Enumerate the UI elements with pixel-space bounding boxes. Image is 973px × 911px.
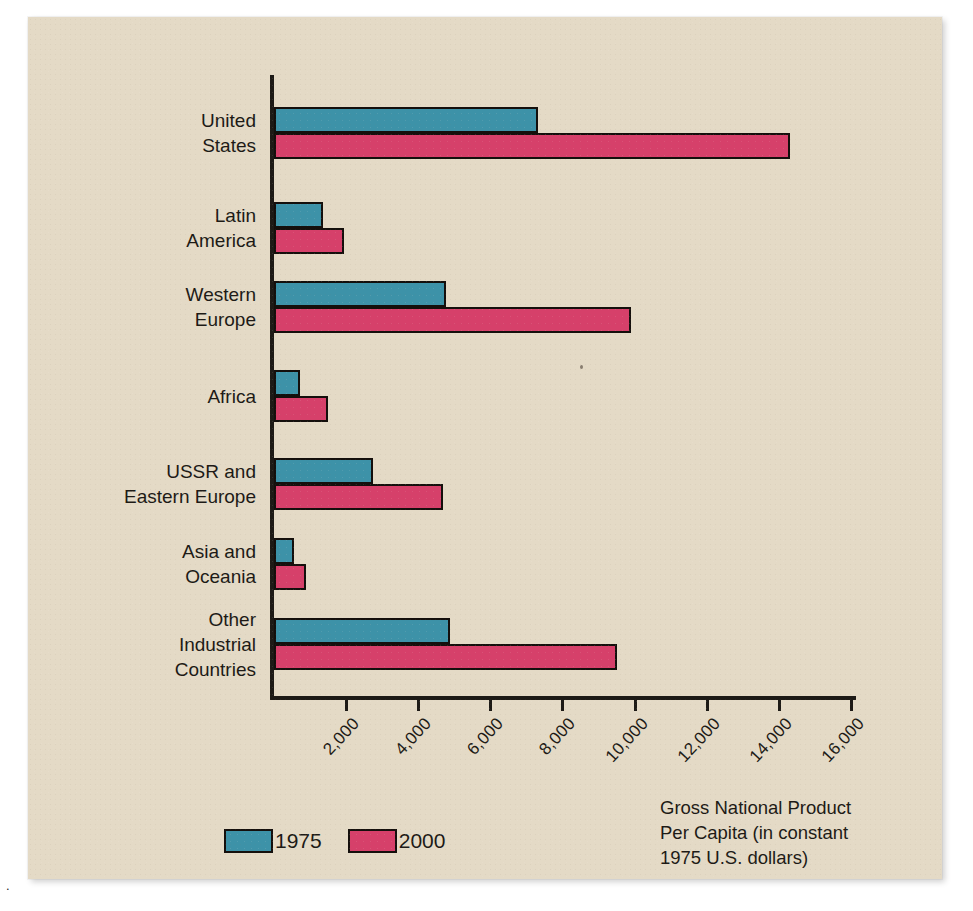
- x-axis-tick-label: 6,000: [464, 714, 508, 759]
- x-axis-tick: [850, 700, 853, 711]
- legend-label: 2000: [399, 829, 446, 853]
- bar-group: [274, 458, 874, 510]
- category-label: United States: [36, 108, 256, 158]
- bar-group: [274, 281, 874, 333]
- x-axis-tick-label: 14,000: [746, 714, 797, 767]
- bar-1975: [274, 458, 373, 484]
- bar-1975: [274, 538, 294, 564]
- bar-group: [274, 618, 874, 670]
- ink-fleck: [580, 365, 583, 369]
- x-axis-tick-label: 10,000: [601, 714, 652, 767]
- x-axis-tick: [417, 700, 420, 711]
- bar-2000: [274, 307, 631, 333]
- category-label: Latin America: [36, 203, 256, 253]
- category-label: Africa: [36, 384, 256, 409]
- bar-1975: [274, 618, 450, 644]
- bar-2000: [274, 228, 344, 254]
- x-axis-tick-label: 8,000: [536, 714, 580, 759]
- legend-label: 1975: [275, 829, 322, 853]
- legend-swatch: [224, 829, 273, 853]
- bar-2000: [274, 644, 617, 670]
- bar-group: [274, 370, 874, 422]
- x-axis-tick: [778, 700, 781, 711]
- legend-item: 2000: [348, 829, 446, 853]
- bar-group: [274, 202, 874, 254]
- figure-panel: 2,0004,0006,0008,00010,00012,00014,00016…: [28, 17, 942, 879]
- x-axis-tick-label: 4,000: [392, 714, 436, 759]
- category-label: USSR and Eastern Europe: [36, 459, 256, 509]
- x-axis-tick: [489, 700, 492, 711]
- chart-legend: 19752000: [224, 829, 445, 853]
- legend-swatch: [348, 829, 397, 853]
- x-axis-tick: [706, 700, 709, 711]
- category-label: Other Industrial Countries: [36, 607, 256, 682]
- bar-2000: [274, 484, 443, 510]
- bar-1975: [274, 107, 538, 133]
- x-axis-tick-label: 2,000: [319, 714, 363, 759]
- bar-1975: [274, 281, 446, 307]
- bar-2000: [274, 133, 790, 159]
- bar-1975: [274, 370, 300, 396]
- x-axis-tick: [634, 700, 637, 711]
- bar-chart: 2,0004,0006,0008,00010,00012,00014,00016…: [28, 17, 942, 879]
- x-axis-tick-label: 12,000: [673, 714, 724, 767]
- bar-1975: [274, 202, 323, 228]
- bar-group: [274, 107, 874, 159]
- category-label: Western Europe: [36, 282, 256, 332]
- x-axis-tick-label: 16,000: [818, 714, 869, 767]
- x-axis-tick: [345, 700, 348, 711]
- bar-2000: [274, 564, 306, 590]
- x-axis-tick: [561, 700, 564, 711]
- page-mark: .: [6, 878, 10, 893]
- bar-group: [274, 538, 874, 590]
- axis-caption: Gross National Product Per Capita (in co…: [660, 795, 920, 870]
- bar-2000: [274, 396, 328, 422]
- legend-item: 1975: [224, 829, 322, 853]
- category-label: Asia and Oceania: [36, 539, 256, 589]
